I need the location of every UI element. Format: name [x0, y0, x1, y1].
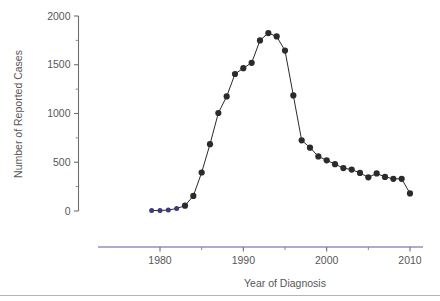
x-tick-label: 2000 [315, 254, 339, 266]
data-point-marker [390, 176, 396, 182]
y-tick-label: 0 [65, 205, 71, 217]
y-axis-title: Number of Reported Cases [12, 50, 24, 178]
data-point-marker [240, 65, 246, 71]
data-point-marker [265, 30, 271, 36]
chart-figure: 0500100015002000 1980199020002010 Number… [0, 0, 440, 301]
data-point-marker [274, 33, 280, 39]
x-tick-label: 2010 [398, 254, 422, 266]
data-point-marker [382, 174, 388, 180]
data-point-marker [357, 170, 363, 176]
y-tick-label: 2000 [47, 10, 71, 22]
data-point-marker [349, 166, 355, 172]
data-point-marker [149, 208, 154, 213]
series-line [152, 33, 410, 210]
data-point-marker [190, 193, 196, 199]
x-tick-label: 1990 [232, 254, 256, 266]
x-axis: 1980199020002010 [98, 247, 423, 266]
data-point-marker [282, 48, 288, 54]
line-chart: 0500100015002000 1980199020002010 Number… [0, 0, 440, 301]
data-point-marker [324, 157, 330, 163]
data-point-marker [232, 71, 238, 77]
data-point-marker [399, 176, 405, 182]
data-point-marker [315, 153, 321, 159]
x-tick-label: 1980 [148, 254, 172, 266]
x-axis-title: Year of Diagnosis [244, 277, 326, 289]
data-point-marker [374, 170, 380, 176]
data-point-marker [166, 208, 171, 213]
data-series [149, 30, 413, 213]
y-tick-label: 500 [53, 156, 71, 168]
data-point-marker [158, 208, 163, 213]
data-point-marker [340, 165, 346, 171]
data-point-marker [257, 37, 263, 43]
data-point-marker [215, 110, 221, 116]
data-point-marker [307, 145, 313, 151]
data-point-marker [407, 190, 413, 196]
y-tick-label: 1500 [47, 58, 71, 70]
data-point-marker [290, 92, 296, 98]
data-point-marker [365, 174, 371, 180]
data-point-marker [332, 161, 338, 167]
data-point-marker [174, 206, 179, 211]
y-tick-label: 1000 [47, 107, 71, 119]
data-point-marker [249, 60, 255, 66]
data-point-marker [182, 203, 188, 209]
data-point-marker [224, 93, 230, 99]
y-axis: 0500100015002000 [47, 10, 78, 217]
data-point-marker [299, 137, 305, 143]
data-point-marker [199, 169, 205, 175]
data-point-marker [207, 141, 213, 147]
